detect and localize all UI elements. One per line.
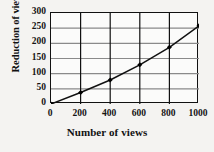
- x-tick-label: 400: [102, 108, 116, 119]
- horizontal-gridlines: [51, 28, 199, 89]
- x-axis-title: Number of views: [0, 126, 214, 138]
- x-tick-label: 600: [132, 108, 146, 119]
- y-tick-label: 50: [12, 83, 46, 93]
- plot-canvas: [51, 13, 199, 104]
- x-axis-tick-labels: 02004006008001000: [0, 108, 214, 120]
- x-tick-label: 800: [161, 108, 175, 119]
- data-point-marker: [108, 78, 113, 83]
- plot-area: [50, 12, 198, 103]
- y-tick-label: 0: [12, 98, 46, 108]
- y-tick-label: 250: [12, 22, 46, 32]
- chart-figure: Reduction of views 050100150200250300 02…: [0, 0, 214, 152]
- data-point-marker: [78, 90, 83, 95]
- y-tick-label: 300: [12, 7, 46, 17]
- y-tick-label: 100: [12, 68, 46, 78]
- data-point-markers: [51, 23, 199, 104]
- y-tick-label: 200: [12, 38, 46, 48]
- y-axis-tick-labels: 050100150200250300: [12, 8, 46, 104]
- x-tick-label: 1000: [189, 108, 208, 119]
- x-tick-label: 0: [48, 108, 53, 119]
- y-tick-label: 150: [12, 53, 46, 63]
- x-tick-label: 200: [72, 108, 86, 119]
- data-series-line: [51, 26, 199, 104]
